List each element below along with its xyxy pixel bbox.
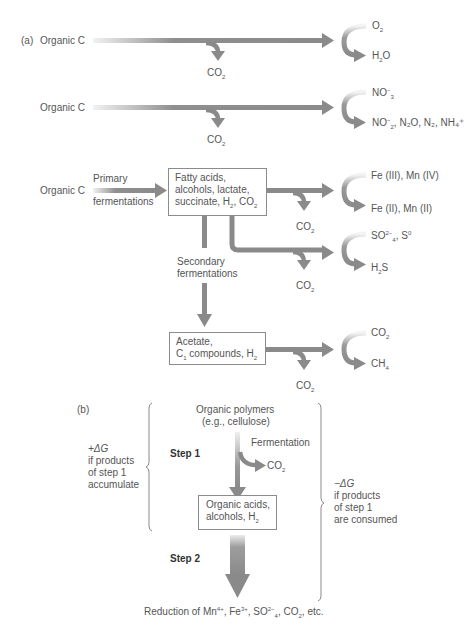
row2-acceptor-no3: NO−3 bbox=[372, 87, 394, 99]
row1-co2: CO2 bbox=[207, 67, 225, 79]
organic-polymers: Organic polymers bbox=[196, 404, 274, 416]
left-note-line3: of step 1 bbox=[88, 467, 126, 479]
row3-source: Organic C bbox=[40, 185, 85, 197]
hydrogen-sulfide: H2S bbox=[371, 262, 388, 274]
step1-co2: CO2 bbox=[267, 460, 285, 472]
row3-co2-2: CO2 bbox=[296, 280, 314, 292]
row1-product-h2o: H2O bbox=[372, 50, 390, 62]
step1-label: Step 1 bbox=[170, 448, 200, 460]
secondary-fermentations-line2: fermentations bbox=[177, 268, 238, 280]
row3-co2-3: CO2 bbox=[296, 380, 314, 392]
part-a-label: (a) bbox=[21, 35, 33, 47]
fe-mn-oxidized: Fe (III), Mn (IV) bbox=[371, 170, 439, 182]
methanogenesis-co2: CO2 bbox=[371, 327, 389, 339]
box-acetate: Acetate, C1 compounds, H2 bbox=[169, 332, 266, 365]
fermentation-label: Fermentation bbox=[251, 437, 310, 449]
step2-label: Step 2 bbox=[170, 553, 200, 565]
row2-source: Organic C bbox=[40, 102, 85, 114]
row2-products-nitrogen: NO−2, N₂O, N₂, NH₄⁺ bbox=[372, 117, 464, 129]
row3-co2-1: CO2 bbox=[296, 221, 314, 233]
box-fatty-acids: Fatty acids, alcohols, lactate, succinat… bbox=[168, 168, 267, 216]
box-organic-acids: Organic acids, alcohols, H2 bbox=[198, 495, 277, 530]
row1-arrows bbox=[93, 26, 366, 62]
row1-source: Organic C bbox=[40, 35, 85, 47]
left-note-line4: accumulate bbox=[88, 479, 139, 491]
methane: CH4 bbox=[371, 358, 389, 370]
left-note-line2: if products bbox=[88, 455, 134, 467]
sulfate-sulfur: SO2−4, S0 bbox=[371, 230, 411, 242]
fe-mn-reduced: Fe (II), Mn (II) bbox=[371, 203, 432, 215]
row2-co2: CO2 bbox=[207, 134, 225, 146]
reduction-caption: Reduction of Mn4+, Fe3+, SO2−4, CO2, etc… bbox=[144, 606, 324, 618]
right-note-line2: if products bbox=[334, 490, 380, 502]
diagram-arrows bbox=[0, 0, 471, 629]
part-b-label: (b) bbox=[77, 404, 89, 416]
cellulose-example: (e.g., cellulose) bbox=[202, 416, 270, 428]
right-note-line4: are consumed bbox=[334, 514, 397, 526]
secondary-fermentations-line1: Secondary bbox=[177, 256, 225, 268]
right-note-line3: of step 1 bbox=[334, 502, 372, 514]
right-note-delta-g: −ΔG bbox=[334, 478, 354, 490]
row1-acceptor-o2: O2 bbox=[372, 20, 383, 32]
primary-fermentations-line1: Primary bbox=[93, 173, 127, 185]
primary-fermentations-line2: fermentations bbox=[93, 196, 154, 208]
row2-arrows bbox=[93, 92, 366, 129]
left-note-delta-g: +ΔG bbox=[88, 443, 108, 455]
